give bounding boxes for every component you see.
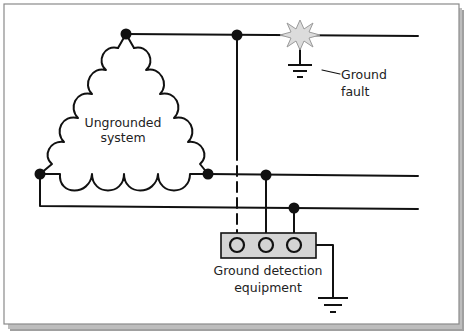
fault-label-line1: Ground	[341, 67, 387, 82]
equipment-label-line1: Ground detection	[214, 263, 323, 278]
system-label-line2: system	[100, 130, 145, 145]
equipment-label-line2: equipment	[234, 280, 302, 295]
sense-node-b	[261, 170, 272, 181]
sense-node-c	[289, 203, 300, 214]
system-label-line1: Ungrounded	[85, 115, 162, 130]
top-node	[121, 29, 132, 40]
bottom-left-node	[35, 169, 46, 180]
bottom-right-node	[203, 169, 214, 180]
diagram-canvas: Ungrounded system Ground fault Ground de…	[0, 0, 467, 332]
sense-node-a	[232, 30, 243, 41]
fault-label-line2: fault	[341, 84, 369, 99]
